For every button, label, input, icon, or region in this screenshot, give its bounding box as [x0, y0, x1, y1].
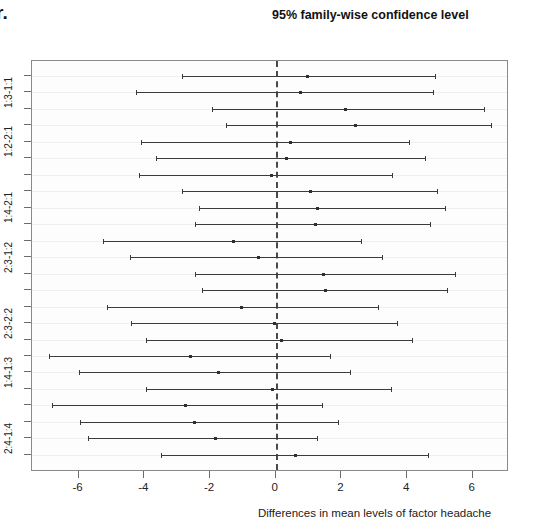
y-axis-tick: [24, 141, 31, 142]
interval-upper-cap: [382, 255, 383, 260]
interval-lower-cap: [88, 436, 89, 441]
confidence-interval-segment: [139, 175, 392, 176]
plot-inner: [32, 61, 507, 470]
x-axis-tick: [78, 471, 79, 478]
cropped-corner-text: r.: [0, 2, 8, 24]
x-axis-tick: [275, 471, 276, 478]
y-axis-tick: [24, 75, 31, 76]
interval-lower-cap: [139, 173, 140, 178]
interval-upper-cap: [391, 387, 392, 392]
interval-lower-cap: [195, 272, 196, 277]
interval-upper-cap: [447, 288, 448, 293]
y-axis-tick: [24, 273, 31, 274]
interval-upper-cap: [445, 206, 446, 211]
y-axis-tick: [24, 339, 31, 340]
confidence-interval-segment: [136, 92, 433, 93]
interval-upper-cap: [412, 338, 413, 343]
confidence-interval-segment: [212, 109, 485, 110]
interval-upper-cap: [428, 453, 429, 458]
interval-lower-cap: [136, 90, 137, 95]
interval-point-estimate: [294, 454, 297, 457]
y-axis-tick: [24, 174, 31, 175]
y-axis-tick-label: 1:4-1:3: [3, 357, 14, 388]
y-axis-tick-label: 2:3-1:2: [3, 242, 14, 273]
y-axis-tick-label: 1:4-2:1: [3, 192, 14, 223]
y-axis-tick: [24, 454, 31, 455]
interval-point-estimate: [316, 207, 319, 210]
chart-title: 95% family-wise confidence level: [272, 8, 469, 22]
x-axis-tick-label: 0: [255, 481, 295, 493]
y-axis-tick: [24, 388, 31, 389]
confidence-interval-segment: [226, 125, 490, 126]
interval-point-estimate: [344, 108, 347, 111]
y-axis-tick: [24, 289, 31, 290]
interval-upper-cap: [350, 370, 351, 375]
interval-upper-cap: [378, 305, 379, 310]
y-axis-tick: [24, 256, 31, 257]
interval-upper-cap: [455, 272, 456, 277]
interval-point-estimate: [299, 91, 302, 94]
y-axis-tick: [24, 240, 31, 241]
confidence-interval-segment: [88, 438, 316, 439]
interval-point-estimate: [322, 273, 325, 276]
confidence-interval-segment: [79, 372, 350, 373]
interval-lower-cap: [182, 189, 183, 194]
interval-upper-cap: [330, 354, 331, 359]
confidence-interval-segment: [131, 323, 397, 324]
x-axis-tick-label: 2: [320, 481, 360, 493]
y-axis-tick: [24, 322, 31, 323]
interval-lower-cap: [107, 305, 108, 310]
interval-point-estimate: [193, 421, 196, 424]
interval-lower-cap: [49, 354, 50, 359]
interval-point-estimate: [184, 404, 187, 407]
interval-lower-cap: [52, 403, 53, 408]
y-axis-tick: [24, 157, 31, 158]
interval-lower-cap: [79, 370, 80, 375]
confidence-interval-segment: [199, 208, 445, 209]
x-axis-tick: [340, 471, 341, 478]
y-axis-tick: [24, 355, 31, 356]
y-axis-tick: [24, 190, 31, 191]
interval-upper-cap: [437, 189, 438, 194]
y-axis-tick-label: 2:3-2:2: [3, 307, 14, 338]
y-axis-tick-label: 1:2-2:1: [3, 126, 14, 157]
y-axis-tick-label: 2:4-1:4: [3, 423, 14, 454]
interval-point-estimate: [271, 388, 274, 391]
interval-lower-cap: [226, 123, 227, 128]
interval-upper-cap: [361, 239, 362, 244]
interval-lower-cap: [202, 288, 203, 293]
interval-point-estimate: [306, 75, 309, 78]
y-axis-tick: [24, 207, 31, 208]
x-axis-tick: [143, 471, 144, 478]
x-axis-tick-label: -2: [189, 481, 229, 493]
interval-upper-cap: [435, 74, 436, 79]
interval-upper-cap: [484, 107, 485, 112]
x-axis-tick: [472, 471, 473, 478]
chart-canvas: r. 95% family-wise confidence level 1:3-…: [0, 0, 544, 528]
interval-point-estimate: [270, 174, 273, 177]
interval-point-estimate: [285, 157, 288, 160]
plot-area: [31, 60, 508, 471]
interval-point-estimate: [354, 124, 357, 127]
interval-point-estimate: [240, 306, 243, 309]
interval-lower-cap: [146, 338, 147, 343]
interval-point-estimate: [314, 223, 317, 226]
interval-lower-cap: [130, 255, 131, 260]
interval-lower-cap: [161, 453, 162, 458]
interval-lower-cap: [131, 321, 132, 326]
interval-lower-cap: [141, 140, 142, 145]
y-axis-tick: [24, 124, 31, 125]
interval-upper-cap: [338, 420, 339, 425]
interval-upper-cap: [491, 123, 492, 128]
interval-point-estimate: [324, 289, 327, 292]
interval-lower-cap: [182, 74, 183, 79]
interval-point-estimate: [289, 141, 292, 144]
confidence-interval-segment: [80, 422, 338, 423]
x-axis-tick-label: -6: [58, 481, 98, 493]
interval-point-estimate: [280, 339, 283, 342]
confidence-interval-segment: [156, 158, 425, 159]
interval-upper-cap: [392, 173, 393, 178]
x-axis-tick-label: -4: [123, 481, 163, 493]
x-axis-tick-label: 4: [386, 481, 426, 493]
y-axis-tick: [24, 108, 31, 109]
